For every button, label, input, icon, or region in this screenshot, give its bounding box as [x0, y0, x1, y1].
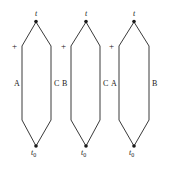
shape-3-bottom-right-edge	[134, 120, 149, 146]
shape-2-left-label: B	[62, 80, 67, 88]
diagram-figure: t t t t0 t0 t0 + + + A C B C A B	[0, 0, 169, 169]
shape-2-top-arrowhead	[84, 20, 88, 24]
shape-1-right-label: C	[54, 80, 59, 88]
shape-1-left-label: A	[14, 80, 20, 88]
worldline-shape-3	[119, 20, 149, 148]
shape-1-bottom-left-edge	[22, 120, 36, 146]
shape-3-left-label: A	[111, 80, 117, 88]
shape-3-top-arrowhead	[132, 20, 136, 24]
shape-3-bottom-label: t0	[129, 149, 134, 157]
shape-2-bottom-label: t0	[81, 149, 86, 157]
shape-3-right-label: B	[152, 80, 157, 88]
shape-3-bottom-left-edge	[119, 120, 134, 146]
shape-1-bottom-label: t0	[31, 149, 36, 157]
shape-3-bottom-label-sub: 0	[131, 152, 134, 158]
shape-2-top-left-edge	[71, 22, 86, 46]
shape-3-top-left-edge	[119, 22, 134, 46]
shape-2-bottom-right-edge	[86, 120, 100, 146]
shape-1-plus-label: +	[12, 42, 17, 51]
shape-2-bottom-arrowhead	[84, 144, 88, 148]
shape-2-right-label: C	[103, 80, 108, 88]
shape-3-top-label: t	[133, 10, 135, 18]
shape-3-top-right-edge	[134, 22, 149, 46]
shape-1-bottom-arrowhead	[34, 144, 38, 148]
shape-2-bottom-left-edge	[71, 120, 86, 146]
shape-1-bottom-right-edge	[36, 120, 51, 146]
shape-2-plus-label: +	[61, 42, 66, 51]
shape-1-top-label: t	[35, 10, 37, 18]
shape-3-plus-label: +	[109, 42, 114, 51]
worldline-shape-1	[22, 20, 51, 148]
diagram-canvas	[0, 0, 169, 169]
shape-3-bottom-arrowhead	[132, 144, 136, 148]
shape-1-top-right-edge	[36, 22, 51, 46]
shape-2-top-label: t	[85, 10, 87, 18]
shape-1-top-arrowhead	[34, 20, 38, 24]
shape-1-bottom-label-sub: 0	[33, 152, 36, 158]
shape-2-bottom-label-sub: 0	[83, 152, 86, 158]
shape-1-top-left-edge	[22, 22, 36, 46]
shape-2-top-right-edge	[86, 22, 100, 46]
worldline-shape-2	[71, 20, 100, 148]
